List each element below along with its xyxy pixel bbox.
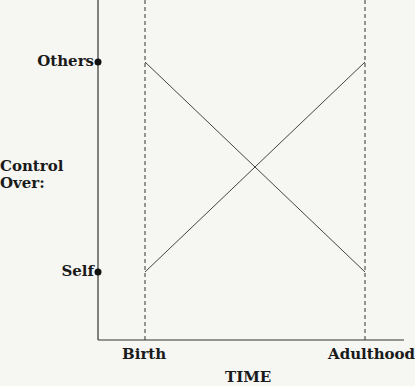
y-axis-title-text: Control Over: xyxy=(0,157,63,192)
others-label: Others xyxy=(37,53,94,70)
y-axis-title: Control Over: xyxy=(0,158,70,192)
adulthood-label: Adulthood xyxy=(328,346,415,363)
others-marker xyxy=(95,59,102,66)
self-marker xyxy=(95,269,102,276)
birth-label: Birth xyxy=(122,346,166,363)
self-label: Self xyxy=(61,263,94,280)
x-axis-title: TIME xyxy=(225,369,271,386)
